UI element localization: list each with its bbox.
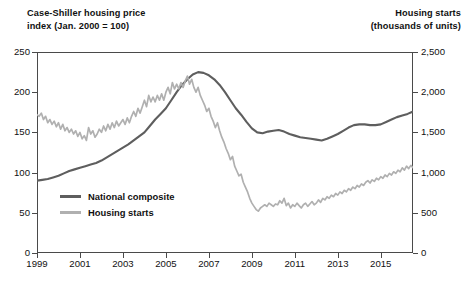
x-tick-mark <box>252 253 253 258</box>
left-tick-mark <box>32 52 37 53</box>
left-tick-mark <box>32 132 37 133</box>
legend-label: National composite <box>88 191 174 202</box>
x-tick-label: 2005 <box>148 258 184 269</box>
left-tick-label: 150 <box>0 126 30 137</box>
plot-area <box>37 52 413 253</box>
right-tick-mark <box>413 52 418 53</box>
data-lines <box>37 52 413 253</box>
series-line <box>37 72 413 181</box>
x-tick-label: 2003 <box>105 258 141 269</box>
legend-swatch <box>60 195 81 198</box>
right-tick-label: 1,500 <box>421 126 445 137</box>
left-tick-mark <box>32 173 37 174</box>
left-tick-mark <box>32 92 37 93</box>
right-tick-label: 2,500 <box>421 46 445 57</box>
x-tick-label: 2001 <box>62 258 98 269</box>
right-tick-label: 1,000 <box>421 167 445 178</box>
housing-chart-figure: Case-Shiller housing price index (Jan. 2… <box>0 0 471 283</box>
chart-legend: National compositeHousing starts <box>60 188 174 220</box>
x-tick-mark <box>123 253 124 258</box>
left-axis-title: Case-Shiller housing price index (Jan. 2… <box>27 7 146 32</box>
x-tick-mark <box>209 253 210 258</box>
left-tick-label: 100 <box>0 167 30 178</box>
x-tick-label: 2013 <box>320 258 356 269</box>
x-tick-mark <box>381 253 382 258</box>
x-tick-label: 2011 <box>277 258 313 269</box>
legend-swatch <box>60 211 81 214</box>
legend-label: Housing starts <box>88 207 154 218</box>
x-tick-label: 2007 <box>191 258 227 269</box>
right-tick-label: 500 <box>421 207 437 218</box>
right-tick-mark <box>413 92 418 93</box>
left-tick-label: 50 <box>0 207 30 218</box>
x-tick-mark <box>295 253 296 258</box>
right-tick-mark <box>413 213 418 214</box>
x-tick-label: 2015 <box>363 258 399 269</box>
x-tick-label: 1999 <box>19 258 55 269</box>
x-tick-mark <box>80 253 81 258</box>
left-tick-label: 200 <box>0 86 30 97</box>
legend-item: Housing starts <box>60 204 174 220</box>
x-tick-label: 2009 <box>234 258 270 269</box>
x-tick-mark <box>37 253 38 258</box>
right-tick-label: 2,000 <box>421 86 445 97</box>
right-tick-label: 0 <box>421 247 426 258</box>
right-tick-mark <box>413 173 418 174</box>
right-tick-mark <box>413 132 418 133</box>
right-tick-mark <box>413 253 418 254</box>
left-tick-label: 0 <box>0 247 30 258</box>
right-axis-title: Housing starts (thousands of units) <box>371 7 461 32</box>
left-tick-label: 250 <box>0 46 30 57</box>
x-tick-mark <box>166 253 167 258</box>
left-tick-mark <box>32 213 37 214</box>
legend-item: National composite <box>60 188 174 204</box>
x-tick-mark <box>338 253 339 258</box>
